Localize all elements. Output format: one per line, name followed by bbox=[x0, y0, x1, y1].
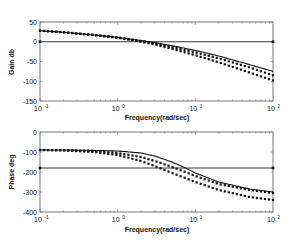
xtick-label: 10 bbox=[189, 105, 197, 112]
ytick-label: -100 bbox=[23, 78, 37, 85]
ytick-label: -400 bbox=[23, 209, 37, 216]
xtick-exponent: -1 bbox=[45, 215, 49, 220]
ytick-label: 0 bbox=[33, 38, 37, 45]
gain-ytick-labels: 500-50-100-150 bbox=[23, 19, 37, 105]
xtick-label: 10 bbox=[267, 216, 275, 223]
ytick-label: -50 bbox=[27, 58, 37, 65]
xtick-exponent: 1 bbox=[200, 215, 203, 220]
gain-xtick-labels: 10-1100101102 bbox=[34, 104, 280, 113]
xtick-label: 10 bbox=[34, 216, 42, 223]
xtick-exponent: 2 bbox=[278, 215, 281, 220]
ytick-label: -100 bbox=[23, 149, 37, 156]
ytick-label: -300 bbox=[23, 189, 37, 196]
ytick-label: 0 bbox=[33, 129, 37, 136]
phase-xtick-labels: 10-1100101102 bbox=[34, 215, 280, 224]
xtick-label: 10 bbox=[189, 216, 197, 223]
ytick-label: 50 bbox=[29, 19, 37, 26]
xtick-exponent: 0 bbox=[122, 215, 125, 220]
phase-xlabel: Frequency(rad/sec) bbox=[125, 226, 190, 234]
phase-plot-frame bbox=[40, 132, 273, 212]
xtick-exponent: 2 bbox=[278, 104, 281, 109]
xtick-exponent: 0 bbox=[122, 104, 125, 109]
phase-plot: 0-100-200-300-400 10-1100101102 Phase de… bbox=[8, 129, 281, 235]
ytick-label: -200 bbox=[23, 169, 37, 176]
gain-xlabel: Frequency(rad/sec) bbox=[125, 114, 190, 122]
phase-ylabel: Phase deg bbox=[8, 154, 16, 189]
xtick-label: 10 bbox=[112, 105, 120, 112]
ytick-label: -150 bbox=[23, 98, 37, 105]
xtick-label: 10 bbox=[267, 105, 275, 112]
xtick-exponent: -1 bbox=[45, 104, 49, 109]
xtick-label: 10 bbox=[34, 105, 42, 112]
xtick-label: 10 bbox=[112, 216, 120, 223]
gain-ylabel: Gain db bbox=[8, 49, 15, 75]
xtick-exponent: 1 bbox=[200, 104, 203, 109]
phase-ytick-labels: 0-100-200-300-400 bbox=[23, 129, 37, 216]
gain-plot: 500-50-100-150 10-1100101102 Gain db Fre… bbox=[8, 19, 281, 123]
bode-figure: 500-50-100-150 10-1100101102 Gain db Fre… bbox=[0, 0, 294, 242]
